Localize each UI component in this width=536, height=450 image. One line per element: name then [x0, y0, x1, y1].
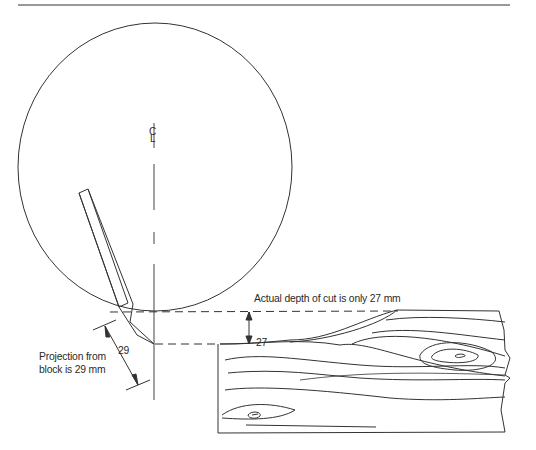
centerline-symbol: C L	[149, 127, 157, 145]
wood-block	[218, 310, 510, 433]
actual-depth-label: Actual depth of cut is only 27 mm	[254, 291, 401, 305]
projection-label-line1: Projection from	[39, 349, 106, 363]
dimension-27-label: 27	[256, 335, 267, 349]
cutting-depth-diagram	[0, 0, 536, 450]
projection-label-line2: block is 29 mm	[39, 362, 106, 376]
dimension-29-label: 29	[118, 343, 129, 357]
wheel-circle	[18, 23, 292, 311]
dimension-27	[246, 312, 252, 344]
tool-bar	[79, 189, 154, 344]
